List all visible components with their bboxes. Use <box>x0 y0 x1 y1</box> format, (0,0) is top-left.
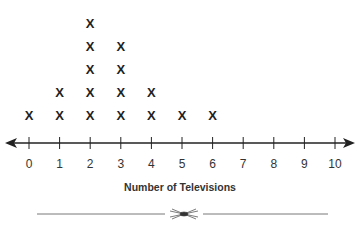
x-mark: X <box>83 40 97 54</box>
tick-label: 9 <box>294 157 314 171</box>
tick-label: 0 <box>19 157 39 171</box>
x-mark: X <box>22 109 36 123</box>
x-mark: X <box>114 40 128 54</box>
tick-label: 3 <box>111 157 131 171</box>
tick-label: 5 <box>172 157 192 171</box>
x-mark: X <box>83 86 97 100</box>
x-mark: X <box>83 17 97 31</box>
ornament-icon <box>170 209 198 219</box>
x-mark: X <box>144 86 158 100</box>
x-mark: X <box>53 86 67 100</box>
tick-label: 8 <box>264 157 284 171</box>
line-plot: XXXXXXXXXXXXXXXX 012345678910 Number of … <box>0 0 360 226</box>
tick-label: 2 <box>80 157 100 171</box>
x-mark: X <box>114 86 128 100</box>
tick-label: 10 <box>325 157 345 171</box>
x-mark: X <box>83 109 97 123</box>
tick-label: 1 <box>50 157 70 171</box>
tick-label: 4 <box>141 157 161 171</box>
x-mark: X <box>144 109 158 123</box>
x-mark: X <box>206 109 220 123</box>
x-mark: X <box>83 63 97 77</box>
tick-label: 6 <box>203 157 223 171</box>
x-mark: X <box>114 109 128 123</box>
x-axis-label: Number of Televisions <box>0 181 360 193</box>
x-mark: X <box>53 109 67 123</box>
tick-label: 7 <box>233 157 253 171</box>
x-mark: X <box>114 63 128 77</box>
x-mark: X <box>175 109 189 123</box>
